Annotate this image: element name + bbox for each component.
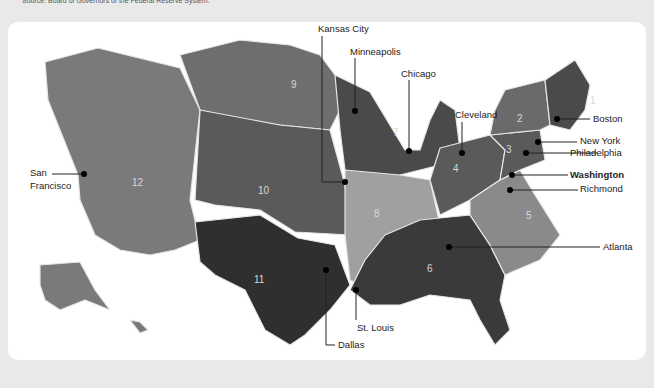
label-richmond: Richmond	[580, 184, 623, 194]
san-francisco-dot	[81, 171, 87, 177]
district-number-4: 4	[453, 163, 459, 174]
kansas-city-dot	[342, 179, 348, 185]
st-louis-dot	[353, 287, 359, 293]
label-san-francisco-line2: Francisco	[30, 181, 71, 191]
label-chicago: Chicago	[401, 69, 436, 79]
district-number-9: 9	[291, 79, 297, 90]
philadelphia-dot	[523, 150, 529, 156]
district-number-6: 6	[427, 263, 433, 274]
label-cleveland: Cleveland	[455, 110, 497, 120]
label-san-francisco-line1: San	[30, 168, 47, 178]
district-number-5: 5	[526, 210, 532, 221]
label-boston: Boston	[593, 114, 623, 124]
dallas-dot	[323, 267, 329, 273]
alaska-region	[40, 262, 110, 310]
label-kansas-city: Kansas City	[318, 24, 369, 34]
chicago-dot	[406, 148, 412, 154]
us-map	[0, 0, 654, 388]
hawaii-region	[130, 320, 148, 333]
label-new-york: New York	[580, 136, 620, 146]
district-number-8: 8	[374, 208, 380, 219]
label-dallas: Dallas	[338, 340, 364, 350]
boston-dot	[554, 116, 560, 122]
district-number-2: 2	[517, 113, 523, 124]
district-number-7: 7	[393, 127, 399, 138]
label-atlanta: Atlanta	[603, 242, 633, 252]
district-number-3: 3	[506, 144, 512, 155]
district-number-10: 10	[258, 185, 269, 196]
washington-dot	[509, 172, 515, 178]
minneapolis-dot	[352, 108, 358, 114]
district-12-region	[45, 48, 200, 255]
district-number-11: 11	[254, 274, 264, 285]
label-philadelphia: Philadelphia	[570, 148, 622, 158]
label-minneapolis: Minneapolis	[350, 47, 401, 57]
atlanta-dot	[446, 244, 452, 250]
district-11-region	[195, 215, 350, 345]
label-washington: Washington	[570, 170, 624, 180]
cleveland-dot	[459, 150, 465, 156]
district-2-region	[490, 80, 550, 135]
district-number-1: 1	[590, 95, 596, 106]
new-york-dot	[535, 139, 541, 145]
label-st-louis: St. Louis	[357, 323, 394, 333]
district-number-12: 12	[132, 177, 143, 188]
richmond-dot	[507, 187, 513, 193]
